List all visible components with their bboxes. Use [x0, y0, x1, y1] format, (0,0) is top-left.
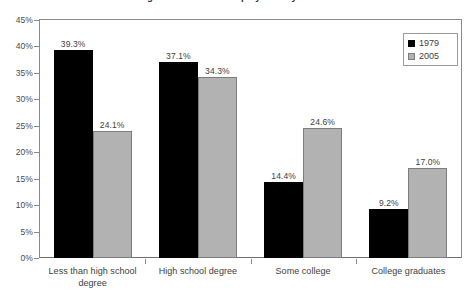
y-axis-tick-label: 40%: [16, 41, 33, 51]
bar-2005-3[interactable]: 17.0%: [408, 168, 447, 258]
bar-2005-1[interactable]: 34.3%: [198, 77, 237, 258]
bar-value-label: 9.2%: [379, 198, 399, 208]
bar-value-label: 34.3%: [205, 66, 230, 76]
x-axis-tick-mark: [251, 259, 252, 264]
legend-swatch-icon-1979: [408, 40, 415, 47]
bar-2005-2[interactable]: 24.6%: [303, 128, 342, 258]
legend-item-2005[interactable]: 2005: [408, 50, 457, 63]
y-axis: 45%40%35%30%25%20%15%10%5%0%: [0, 19, 39, 259]
bar-value-label: 14.4%: [271, 171, 296, 181]
y-axis-tick-label: 45%: [16, 15, 33, 25]
bar-value-label: 39.3%: [61, 39, 86, 49]
bar-group: 14.4%24.6%: [251, 20, 356, 258]
plot-area: 39.3%24.1%37.1%34.3%14.4%24.6%9.2%17.0%: [40, 20, 461, 258]
y-axis-tick-label: 10%: [16, 200, 33, 210]
x-axis-category-label: Less than high school degree: [40, 266, 145, 289]
legend-swatch-icon-2005: [408, 53, 415, 60]
x-axis-tick-mark: [356, 259, 357, 264]
y-axis-tick-label: 5%: [21, 227, 34, 237]
chart-title: Percentage distribution of employment by…: [0, 0, 475, 2]
x-axis-category-label: College graduates: [356, 266, 461, 278]
x-axis-tick-mark: [145, 259, 146, 264]
bar-chart: Percentage distribution of employment by…: [0, 0, 475, 305]
y-axis-tick-label: 15%: [16, 174, 33, 184]
bar-value-label: 24.1%: [100, 120, 125, 130]
bar-value-label: 17.0%: [416, 157, 441, 167]
y-axis-tick-label: 25%: [16, 121, 33, 131]
bar-group: 39.3%24.1%: [40, 20, 145, 258]
bar-1979-0[interactable]: 39.3%: [54, 50, 93, 258]
bar-2005-0[interactable]: 24.1%: [93, 131, 132, 258]
legend-label-2005: 2005: [419, 52, 439, 61]
bar-1979-3[interactable]: 9.2%: [369, 209, 408, 258]
y-axis-tick-label: 35%: [16, 68, 33, 78]
y-axis-tick-label: 30%: [16, 94, 33, 104]
y-axis-tick-label: 0%: [21, 253, 34, 263]
bar-group: 37.1%34.3%: [145, 20, 250, 258]
bar-value-label: 24.6%: [310, 117, 335, 127]
legend-label-1979: 1979: [419, 39, 439, 48]
bar-1979-2[interactable]: 14.4%: [264, 182, 303, 258]
bar-value-label: 37.1%: [166, 51, 191, 61]
bar-1979-1[interactable]: 37.1%: [159, 62, 198, 258]
chart-legend: 1979 2005: [403, 33, 458, 66]
y-axis-tick-mark: [34, 258, 39, 259]
legend-item-1979[interactable]: 1979: [408, 37, 457, 50]
x-axis-category-label: High school degree: [145, 266, 250, 278]
x-axis-category-label: Some college: [251, 266, 356, 278]
y-axis-tick-label: 20%: [16, 147, 33, 157]
